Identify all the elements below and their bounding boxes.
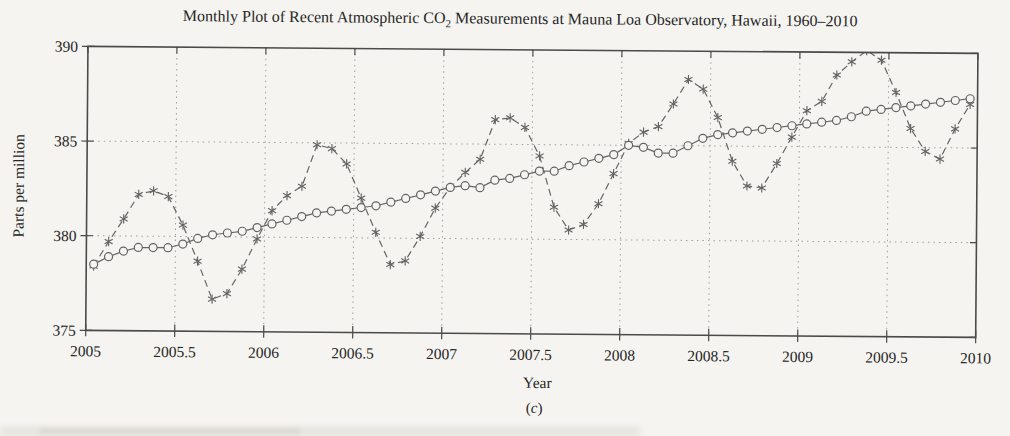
circle-marker [565, 162, 573, 170]
x-tick-label: 2010 [960, 349, 991, 366]
grid-line-horizontal [86, 236, 976, 243]
circle-marker [922, 100, 930, 108]
circle-marker [506, 174, 514, 182]
asterisk-marker [238, 264, 246, 273]
circle-marker [105, 253, 113, 261]
asterisk-marker [610, 169, 618, 178]
circle-marker [966, 95, 974, 103]
asterisk-marker [150, 186, 158, 195]
circle-marker [595, 154, 603, 162]
circle-marker [179, 240, 187, 248]
circle-marker [699, 134, 707, 142]
x-tick-label: 2009 [782, 348, 813, 365]
circle-marker [209, 231, 217, 239]
asterisk-marker [877, 56, 885, 65]
asterisk-marker [179, 220, 187, 229]
circle-marker [714, 131, 722, 139]
asterisk-marker [283, 191, 291, 200]
circle-marker [684, 142, 692, 150]
grid-line-vertical [442, 49, 444, 333]
y-tick-label: 385 [54, 132, 78, 149]
grid-line-vertical [353, 48, 355, 332]
grid-line-vertical [887, 53, 889, 337]
asterisk-marker [164, 192, 172, 201]
circle-marker [818, 118, 826, 126]
x-tick-label: 2007 [426, 345, 457, 362]
asterisk-marker [105, 237, 113, 246]
circle-marker [610, 151, 618, 159]
circle-marker [758, 125, 766, 133]
asterisk-marker [803, 106, 811, 115]
circle-marker [877, 105, 885, 113]
x-tick-label: 2007.5 [509, 346, 552, 363]
figure-container: Monthly Plot of Recent Atmospheric CO2 M… [0, 0, 1010, 436]
asterisk-marker [135, 190, 143, 199]
asterisk-marker [788, 132, 796, 141]
circle-marker [639, 143, 647, 151]
asterisk-marker [892, 88, 900, 97]
asterisk-marker [253, 234, 261, 243]
asterisk-marker [208, 295, 216, 304]
asterisk-marker [579, 220, 587, 229]
x-tick-label: 2008.5 [687, 347, 730, 364]
x-tick-label: 2008 [604, 346, 635, 363]
circle-marker [773, 123, 781, 131]
circle-marker [164, 244, 172, 252]
circle-marker [729, 129, 737, 137]
asterisk-marker [313, 140, 321, 149]
circle-marker [862, 107, 870, 115]
asterisk-marker [848, 57, 856, 66]
grid-line-vertical [175, 47, 177, 331]
series-monthly-group [89, 40, 974, 310]
asterisk-marker [223, 289, 231, 298]
circle-marker [238, 227, 246, 235]
circle-marker [268, 220, 276, 228]
circle-marker [476, 184, 484, 192]
circle-marker [654, 149, 662, 157]
asterisk-marker [386, 260, 394, 269]
y-tick-label: 380 [53, 227, 77, 244]
circle-marker [550, 167, 558, 175]
circle-marker [283, 216, 291, 224]
circle-marker [372, 202, 380, 210]
x-tick-label: 2005.5 [153, 343, 196, 360]
circle-marker [788, 122, 796, 130]
grid-line-vertical [798, 52, 800, 336]
circle-marker [491, 176, 499, 184]
tick-marks-group [80, 46, 978, 343]
circle-marker [223, 229, 231, 237]
asterisk-marker [268, 206, 276, 215]
circle-marker [580, 158, 588, 166]
circle-marker [907, 102, 915, 110]
circle-marker [669, 149, 677, 157]
circle-marker [743, 127, 751, 135]
asterisk-marker [298, 182, 306, 191]
circle-marker [90, 260, 98, 268]
asterisk-marker [714, 113, 722, 122]
x-tick-label: 2006 [248, 344, 279, 361]
asterisk-marker [699, 84, 707, 93]
y-tick-label: 390 [55, 38, 79, 55]
circle-marker [402, 194, 410, 202]
circle-marker [327, 207, 335, 215]
circle-marker [535, 167, 543, 175]
circle-marker [149, 244, 157, 252]
asterisk-marker [521, 123, 529, 132]
x-tick-label: 2009.5 [865, 348, 908, 365]
asterisk-marker [372, 228, 380, 237]
asterisk-marker [640, 128, 648, 137]
asterisk-marker [921, 147, 929, 156]
asterisk-marker [401, 256, 409, 265]
circle-marker [803, 120, 811, 128]
asterisk-marker [684, 75, 692, 84]
asterisk-marker [773, 159, 781, 168]
circle-marker [936, 98, 944, 106]
asterisk-marker [818, 97, 826, 106]
grid-line-vertical [264, 48, 266, 332]
circle-marker [417, 191, 425, 199]
asterisk-marker [936, 154, 944, 163]
circle-marker [253, 224, 261, 232]
circle-marker [431, 187, 439, 195]
asterisk-marker [416, 232, 424, 241]
circle-marker [134, 243, 142, 251]
